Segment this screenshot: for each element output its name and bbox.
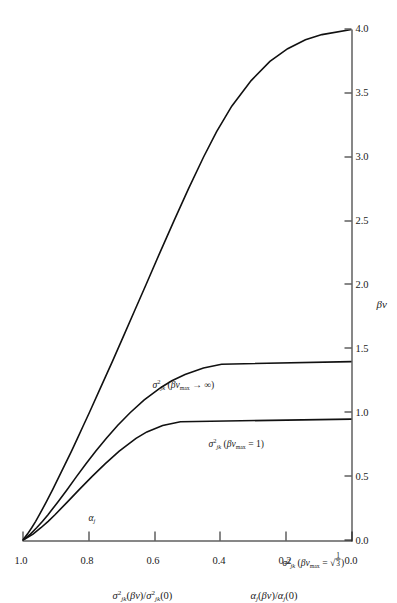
x-tick-label-4: 2.0	[349, 279, 375, 290]
x-tick-label-1: 0.5	[349, 471, 375, 482]
y-tick-label-2: 0.4	[206, 555, 232, 566]
x-tick-label-8: 4.0	[349, 23, 375, 34]
y-tick-label-4: 0.8	[74, 555, 100, 566]
figure-stage: 0.0 0.5 1.0 1.5 2.0 2.5 3.0 3.5 4.0 0.0 …	[0, 0, 397, 603]
y-tick-label-5: 1.0	[8, 555, 34, 566]
x-axis-title: βv	[376, 297, 386, 309]
curve-label-alpha-j: αj	[88, 511, 95, 522]
curve-bvmax-infinity	[22, 29, 351, 540]
curve-label-bvmax-infinity: σ2jk (βvmax → ∞)	[152, 378, 214, 389]
x-tick-label-0: 0.0	[349, 535, 375, 546]
plot-frame	[22, 29, 352, 541]
curve-label-bvmax-root-third: σ2jk (βvmax = √13)	[282, 551, 344, 567]
y-tick-label-3: 0.6	[140, 555, 166, 566]
x-tick-label-3: 1.5	[349, 343, 375, 354]
curve-layer	[22, 29, 351, 540]
y-axis-title-alpha: αj(βv)/αj(0)	[250, 589, 297, 600]
curve-label-bvmax-one: σ2jk (βvmax = 1)	[208, 437, 263, 448]
x-tick-label-7: 3.5	[349, 87, 375, 98]
x-tick-label-6: 3.0	[349, 151, 375, 162]
curve-bvmax-root-third	[22, 419, 351, 540]
x-tick-label-5: 2.5	[349, 215, 375, 226]
x-tick-label-2: 1.0	[349, 407, 375, 418]
y-axis-title-sigma: σ2jk(βv)/σ2jk(0)	[112, 589, 172, 600]
